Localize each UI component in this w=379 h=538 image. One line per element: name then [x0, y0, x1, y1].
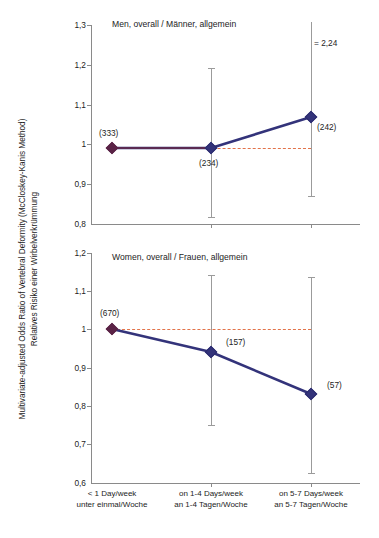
xcat-label-0: < 1 Day/week unter einmal/Woche [62, 489, 162, 510]
men-label-3: (242) [317, 122, 336, 132]
xcat-1-line1: on 1-4 Days/week [161, 489, 261, 500]
panel-women: Women, overall / Frauen, allgemein 1,2 1… [0, 240, 379, 538]
panel-men: Men, overall / Männer, allgemein 1,3 1,2… [0, 0, 379, 240]
xcat-1-line2: an 1-4 Tagen/Woche [161, 500, 261, 511]
xcat-2-line2: an 5-7 Tagen/Woche [261, 500, 361, 511]
men-label-1: (333) [99, 128, 118, 138]
xcat-2-line1: on 5-7 Days/week [261, 489, 361, 500]
women-label-1: (670) [100, 308, 119, 318]
women-label-2: (157) [226, 337, 245, 347]
xcat-label-2: on 5-7 Days/week an 5-7 Tagen/Woche [261, 489, 361, 510]
xcat-0-line2: unter einmal/Woche [62, 500, 162, 511]
women-label-3: (57) [327, 380, 342, 390]
xcat-label-1: on 1-4 Days/week an 1-4 Tagen/Woche [161, 489, 261, 510]
men-label-2: (234) [199, 158, 218, 168]
figure-root: Multivariate-adjusted Odds Ratio of Vert… [0, 0, 379, 538]
xcat-0-line1: < 1 Day/week [62, 489, 162, 500]
men-series-line [0, 0, 379, 240]
men-annotation-upper-ci: = 2,24 [314, 38, 337, 48]
